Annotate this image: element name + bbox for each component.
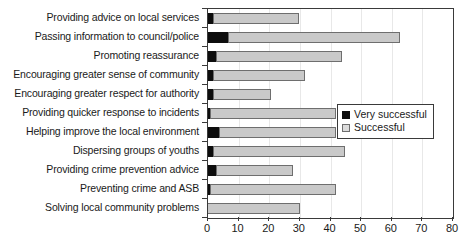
x-axis-tick — [452, 217, 453, 221]
bar-segment — [216, 51, 342, 62]
bar-row — [208, 203, 453, 214]
bar-segment — [210, 108, 336, 119]
x-axis-tick — [268, 217, 269, 221]
category-label: Preventing crime and ASB — [80, 183, 203, 194]
category-label: Encouraging greater respect for authorit… — [14, 88, 203, 99]
category-label: Passing information to council/police — [35, 31, 203, 42]
bar-segment — [219, 127, 335, 138]
x-axis-tick — [391, 217, 392, 221]
x-axis-tick — [207, 217, 208, 221]
x-axis-tick-label: 40 — [323, 222, 335, 235]
x-axis-tick-label: 20 — [262, 222, 274, 235]
bar-segment — [213, 13, 299, 24]
legend: Very successful Successful — [337, 104, 434, 139]
category-label: Encouraging greater sense of community — [13, 69, 203, 80]
category-axis: Providing advice on local services Passi… — [0, 8, 203, 217]
bar-segment — [208, 203, 300, 214]
bar-segment — [208, 32, 229, 43]
bar-segment — [213, 89, 271, 100]
black-square-swatch-icon — [342, 111, 350, 119]
stacked-bar-chart: Providing advice on local services Passi… — [0, 0, 461, 249]
legend-item-successful: Successful — [342, 121, 427, 134]
bar-row — [208, 89, 453, 100]
x-axis-tick-label: 0 — [204, 222, 210, 235]
bar-segment — [213, 146, 345, 157]
bar-row — [208, 184, 453, 195]
bar-segment — [228, 32, 400, 43]
legend-label: Very successful — [354, 108, 427, 121]
x-axis-tick — [330, 217, 331, 221]
x-axis-tick — [299, 217, 300, 221]
category-label: Promoting reassurance — [94, 50, 203, 61]
x-axis-tick — [421, 217, 422, 221]
bar-row — [208, 51, 453, 62]
bar-row — [208, 13, 453, 24]
category-label: Providing advice on local services — [47, 12, 203, 23]
light-gray-square-swatch-icon — [342, 124, 350, 132]
x-axis-tick-label: 30 — [293, 222, 305, 235]
bar-segment — [216, 165, 293, 176]
category-label: Providing quicker response to incidents — [22, 107, 203, 118]
x-axis-tick-label: 50 — [354, 222, 366, 235]
category-label: Helping improve the local environment — [26, 126, 203, 137]
x-axis-tick — [360, 217, 361, 221]
legend-item-very-successful: Very successful — [342, 108, 427, 121]
x-axis-tick — [238, 217, 239, 221]
bar-segment — [210, 184, 336, 195]
bar-segment — [213, 70, 305, 81]
x-axis-tick-label: 80 — [446, 222, 458, 235]
x-axis-tick-label: 10 — [232, 222, 244, 235]
category-label: Solving local community problems — [45, 202, 203, 213]
legend-label: Successful — [354, 121, 405, 134]
bar-row — [208, 165, 453, 176]
category-label: Dispersing groups of youths — [73, 145, 203, 156]
bar-row — [208, 146, 453, 157]
x-axis-tick-label: 60 — [385, 222, 397, 235]
bar-row — [208, 70, 453, 81]
x-axis-tick-label: 70 — [415, 222, 427, 235]
category-label: Providing crime prevention advice — [46, 164, 203, 175]
bar-row — [208, 32, 453, 43]
x-axis: 01020304050607080 — [207, 217, 453, 247]
